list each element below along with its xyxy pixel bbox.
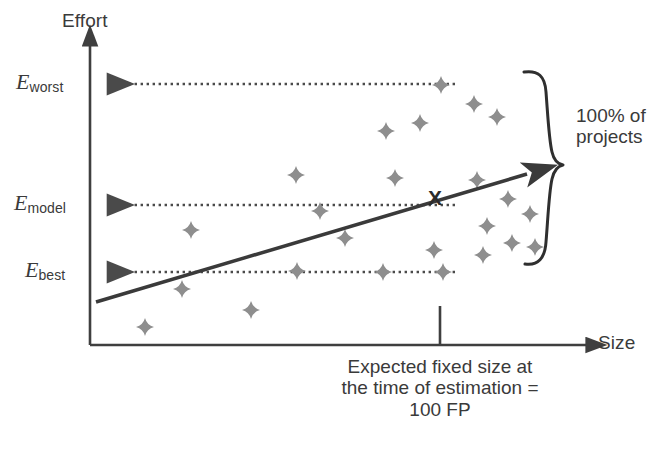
scatter-point bbox=[434, 263, 452, 281]
scatter-point bbox=[182, 221, 200, 239]
scatter-point bbox=[488, 108, 506, 126]
scatter-point bbox=[478, 217, 496, 235]
effort-size-diagram: Effort Size Eworst Emodel Ebest X 100% o… bbox=[0, 0, 668, 450]
y-tick-label-model: Emodel bbox=[14, 191, 66, 216]
scatter-point bbox=[374, 263, 392, 281]
scatter-point bbox=[287, 166, 305, 184]
y-tick-label-worst: Eworst bbox=[16, 70, 63, 95]
e-symbol-model: E bbox=[14, 190, 27, 215]
scatter-point bbox=[499, 190, 517, 208]
x-axis-caption: Expected fixed size at the time of estim… bbox=[290, 356, 590, 420]
scatter-point bbox=[432, 76, 450, 94]
brace-label-line2: projects bbox=[576, 126, 646, 147]
scatter-point bbox=[311, 202, 329, 220]
scatter-point bbox=[503, 234, 521, 252]
scatter-point bbox=[474, 246, 492, 264]
scatter-point bbox=[173, 280, 191, 298]
e-subscript-worst: worst bbox=[29, 79, 63, 95]
scatter-point bbox=[526, 238, 544, 256]
scatter-point bbox=[425, 241, 443, 259]
x-axis-label: Size bbox=[598, 332, 635, 353]
scatter-point bbox=[288, 262, 306, 280]
y-axis-label: Effort bbox=[62, 10, 108, 31]
scatter-point bbox=[377, 122, 395, 140]
scatter-point bbox=[386, 169, 404, 187]
scatter-point bbox=[465, 95, 483, 113]
e-subscript-best: best bbox=[38, 267, 65, 283]
e-subscript-model: model bbox=[27, 200, 66, 216]
caption-line3: 100 FP bbox=[290, 399, 590, 420]
scatter-point bbox=[411, 114, 429, 132]
estimate-marker-x: X bbox=[428, 186, 442, 210]
e-symbol-worst: E bbox=[16, 69, 29, 94]
brace-label: 100% of projects bbox=[576, 105, 646, 148]
e-symbol-best: E bbox=[25, 257, 38, 282]
scatter-point bbox=[136, 318, 154, 336]
y-tick-label-best: Ebest bbox=[25, 258, 65, 283]
scatter-point bbox=[521, 205, 539, 223]
caption-line2: the time of estimation = bbox=[290, 377, 590, 398]
caption-line1: Expected fixed size at bbox=[290, 356, 590, 377]
brace-label-line1: 100% of bbox=[576, 105, 646, 126]
scatter-point bbox=[242, 301, 260, 319]
brace-100-percent bbox=[524, 72, 563, 265]
trend-line bbox=[96, 174, 527, 302]
